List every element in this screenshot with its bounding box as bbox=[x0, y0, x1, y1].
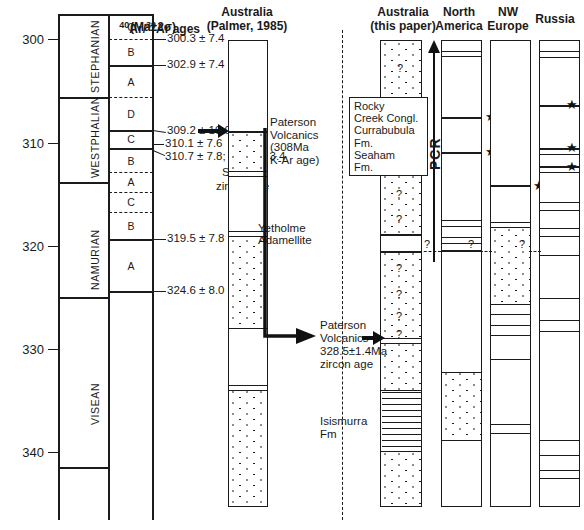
northamerica-boundary-3 bbox=[441, 117, 482, 119]
stage-label-westphalian: WESTPHALIAN bbox=[89, 96, 101, 178]
russia-boundary-10 bbox=[539, 228, 580, 229]
paterson-this-line3: 328.5±1.4Ma bbox=[320, 345, 387, 358]
northamerica-boundary-9 bbox=[441, 250, 482, 252]
stage-boundary-top bbox=[58, 14, 109, 16]
thispaper-bed-dots-4 bbox=[382, 343, 421, 391]
isismurra-line1: Isismurra bbox=[320, 415, 367, 428]
correlation-chart-figure: 40Ar/39Ar ages (Ma±2σ) Australia (Palmer… bbox=[0, 0, 584, 530]
substage-boundary-B-A bbox=[109, 65, 153, 67]
age-label-0: 300.3 ± 7.4 bbox=[167, 32, 224, 44]
age-leader-3 bbox=[153, 144, 164, 145]
substage-boundary-A-C3 bbox=[109, 192, 153, 193]
arrow-paterson-into-column bbox=[362, 330, 386, 346]
correlation-dashed-na bbox=[480, 251, 492, 252]
russia-boundary-18 bbox=[539, 470, 580, 471]
palmer-bed-dots-1 bbox=[230, 133, 267, 171]
age-leader-0 bbox=[153, 39, 166, 40]
callout-units-box: Rocky Creek Congl. Currabubula Fm. Seaha… bbox=[349, 97, 428, 176]
paterson-this-line4: zircon age bbox=[320, 358, 373, 371]
age-leader-4 bbox=[153, 150, 165, 156]
axis-tick-label-340: 340 bbox=[4, 445, 44, 460]
axis-spine bbox=[58, 14, 60, 520]
arrow-paterson-palmer bbox=[198, 122, 230, 140]
substage-boundary-C3-B3 bbox=[109, 212, 153, 213]
russia-boundary-13 bbox=[539, 298, 580, 299]
nweurope-boundary-9 bbox=[490, 424, 531, 425]
substage-label-2: A bbox=[109, 76, 153, 88]
nweurope-boundary-6 bbox=[490, 325, 531, 326]
nweurope-boundary-7 bbox=[490, 335, 531, 336]
header-russia: Russia bbox=[524, 13, 584, 26]
thispaper-query-7: ? bbox=[396, 310, 402, 322]
axis-tick-340 bbox=[48, 452, 58, 453]
substage-boundary-A3-base bbox=[109, 291, 153, 293]
substage-boundary-C-B bbox=[109, 39, 153, 40]
substage-label-4: C bbox=[109, 133, 153, 145]
thispaper-bed-dots-5 bbox=[382, 452, 421, 506]
thispaper-bed-hatch bbox=[382, 392, 421, 450]
substage-label-5: B bbox=[109, 155, 153, 167]
substage-boundary-C-B2 bbox=[109, 148, 153, 150]
age-leader-6 bbox=[153, 291, 166, 292]
russia-boundary-16 bbox=[539, 440, 580, 441]
substage-boundary-B-A2 bbox=[109, 172, 153, 173]
thispaper-query-6: ? bbox=[396, 288, 402, 300]
axis-tick-300 bbox=[48, 39, 58, 40]
stage-boundary-stephanian-westphalian bbox=[58, 97, 109, 99]
palmer-boundary-7 bbox=[228, 385, 268, 386]
substage-label-3: D bbox=[109, 108, 153, 120]
russia-boundary-17 bbox=[539, 455, 580, 456]
substage-top-border bbox=[109, 14, 153, 16]
russia-boundary-8 bbox=[539, 202, 580, 203]
age-label-6: 324.6 ± 8.0 bbox=[167, 284, 224, 296]
axis-tick-320 bbox=[48, 246, 58, 247]
russia-boundary-12 bbox=[539, 255, 580, 256]
northamerica-boundary-4 bbox=[441, 152, 482, 154]
paterson-this-line1: Paterson bbox=[320, 319, 366, 332]
russia-star-3: ★ bbox=[566, 160, 578, 173]
correlation-query-na: ? bbox=[468, 238, 474, 250]
palmer-boundary-8 bbox=[228, 390, 268, 391]
stage-label-namurian: NAMURIAN bbox=[89, 229, 101, 290]
axis-tick-330 bbox=[48, 349, 58, 350]
thispaper-query-1: ? bbox=[397, 62, 403, 74]
northamerica-boundary-8 bbox=[441, 243, 482, 244]
substage-boundary-B3-A3 bbox=[109, 239, 153, 241]
russia-boundary-2 bbox=[539, 57, 580, 58]
northamerica-boundary-11 bbox=[441, 440, 482, 441]
age-leader-5 bbox=[153, 239, 166, 240]
palmer-bed-dots-2 bbox=[230, 239, 267, 328]
correlation-query-thispaper: ? bbox=[424, 238, 430, 250]
stage-boundary-namurian-visean bbox=[58, 297, 109, 299]
nweurope-boundary-10 bbox=[490, 433, 531, 434]
axis-tick-label-310: 310 bbox=[4, 136, 44, 151]
substage-label-6: A bbox=[109, 176, 153, 188]
correlation-dashed-nweurope bbox=[529, 251, 541, 252]
northamerica-boundary-7 bbox=[441, 237, 482, 238]
substage-label-9: A bbox=[109, 260, 153, 272]
stage-boundary-westphalian-namurian bbox=[58, 182, 109, 184]
axis-tick-label-320: 320 bbox=[4, 239, 44, 254]
russia-star-2: ★ bbox=[566, 141, 578, 154]
stage-label-visean: VISEAN bbox=[89, 383, 101, 425]
age-leader-1 bbox=[153, 65, 166, 66]
stage-label-stephanian: STEPHANIAN bbox=[89, 20, 101, 93]
nweurope-boundary-1 bbox=[490, 185, 531, 187]
nweurope-boundary-4 bbox=[490, 304, 531, 305]
nweurope-boundary-2 bbox=[490, 222, 531, 223]
thispaper-query-3: ? bbox=[396, 188, 402, 200]
correlation-dashed-thispaper bbox=[419, 251, 441, 252]
substage-label-8: B bbox=[109, 220, 153, 232]
northamerica-boundary-2 bbox=[441, 56, 482, 57]
russia-boundary-14 bbox=[539, 320, 580, 321]
arrow-paterson-correlation bbox=[262, 128, 324, 343]
substage-boundary-A-D bbox=[109, 97, 153, 98]
age-leader-2 bbox=[153, 130, 166, 133]
russia-boundary-19 bbox=[539, 478, 580, 479]
thispaper-boundary-4 bbox=[380, 251, 422, 253]
substage-label-1: B bbox=[109, 46, 153, 58]
russia-boundary-9 bbox=[539, 210, 580, 211]
northamerica-boundary-10 bbox=[441, 372, 482, 373]
axis-tick-310 bbox=[48, 143, 58, 144]
substage-label-0: C bbox=[109, 21, 153, 33]
